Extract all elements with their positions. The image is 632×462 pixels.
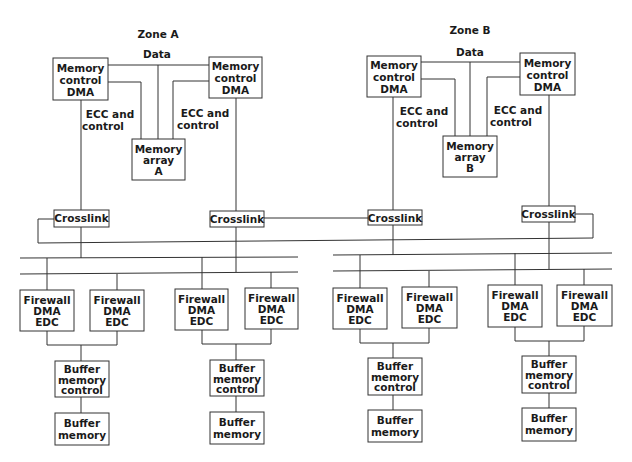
crosslink-a-left: Crosslink <box>54 210 110 227</box>
zone-a-memory-controller-left: Memory control DMA <box>53 58 108 100</box>
svg-text:memory: memory <box>213 428 261 440</box>
svg-text:EDC: EDC <box>105 316 129 328</box>
zone-b-title: Zone B <box>449 24 490 36</box>
buffer-control-b-2: Buffer memory control <box>522 356 576 393</box>
buffer-memory-a-1: Buffer memory <box>55 413 109 445</box>
svg-text:control: control <box>528 379 570 391</box>
svg-text:Memory: Memory <box>57 62 105 74</box>
svg-text:DMA: DMA <box>534 81 562 93</box>
zone-a-memory-array: Memory array A <box>132 139 185 180</box>
svg-text:control: control <box>490 116 532 128</box>
svg-text:control: control <box>216 383 258 395</box>
zone-a-ecc-label-right: ECC and control <box>177 107 229 131</box>
svg-text:memory: memory <box>58 429 106 441</box>
svg-text:Crosslink: Crosslink <box>368 212 423 224</box>
svg-text:memory: memory <box>371 426 419 438</box>
svg-text:control: control <box>61 384 103 396</box>
firewall-b-2: Firewall DMA EDC <box>402 287 457 328</box>
svg-text:memory: memory <box>525 424 573 436</box>
crosslink-interconnect <box>38 214 593 272</box>
zone-b-memory-controller-left: Memory control DMA <box>367 56 421 97</box>
firewall-a-1: Firewall DMA EDC <box>20 290 74 331</box>
svg-text:DMA: DMA <box>380 83 408 95</box>
zone-b-memory-array: Memory array B <box>443 136 497 177</box>
zone-a-title: Zone A <box>137 28 179 40</box>
svg-text:control: control <box>374 381 416 393</box>
zone-a-ecc-label-left: ECC and control <box>82 108 134 132</box>
svg-text:DMA: DMA <box>222 84 250 96</box>
svg-text:control: control <box>177 119 219 131</box>
zone-a-bus <box>20 257 298 274</box>
svg-text:Crosslink: Crosslink <box>54 212 109 224</box>
svg-text:EDC: EDC <box>260 314 284 326</box>
svg-text:ECC and: ECC and <box>400 105 448 117</box>
bus-drops <box>47 253 584 290</box>
buffer-memory-a-2: Buffer memory <box>210 412 264 444</box>
zone-b-ecc-label-left: ECC and control <box>396 105 448 129</box>
svg-text:Crosslink: Crosslink <box>210 213 265 225</box>
buffer-control-a-1: Buffer memory control <box>55 361 109 397</box>
svg-text:EDC: EDC <box>503 311 527 323</box>
buffer-memory-b-2: Buffer memory <box>522 408 576 441</box>
svg-text:DMA: DMA <box>67 86 95 98</box>
zone-b-data-label: Data <box>456 46 484 58</box>
svg-text:Memory: Memory <box>370 59 418 71</box>
svg-text:control: control <box>373 71 415 83</box>
svg-text:control: control <box>215 72 257 84</box>
firewall-b-1: Firewall DMA EDC <box>333 288 387 329</box>
svg-text:ECC and: ECC and <box>494 104 542 116</box>
svg-text:B: B <box>466 162 474 174</box>
svg-text:Memory: Memory <box>212 60 260 72</box>
firewall-a-3: Firewall DMA EDC <box>175 289 228 330</box>
zone-b-bus <box>333 253 612 271</box>
svg-text:Buffer: Buffer <box>377 414 414 426</box>
svg-text:A: A <box>154 165 163 177</box>
firewall-a-4: Firewall DMA EDC <box>245 288 298 329</box>
svg-text:EDC: EDC <box>35 316 59 328</box>
svg-text:EDC: EDC <box>418 313 442 325</box>
svg-text:Crosslink: Crosslink <box>521 208 576 220</box>
svg-text:ECC and: ECC and <box>181 107 229 119</box>
crosslink-a-right: Crosslink <box>210 211 265 227</box>
buffer-control-a-2: Buffer memory control <box>210 360 264 396</box>
zone-b: Zone B Data Memory control DMA Memory co… <box>367 24 575 210</box>
buffer-control-b-1: Buffer memory control <box>368 358 422 395</box>
dual-zone-memory-architecture-diagram: Zone A Data Memory control DMA Memory co… <box>0 0 632 462</box>
zone-b-memory-controller-right: Memory control DMA <box>520 53 575 95</box>
zone-b-ecc-label-right: ECC and control <box>490 104 542 128</box>
svg-text:EDC: EDC <box>190 315 214 327</box>
buffer-memory-b-1: Buffer memory <box>368 410 422 442</box>
zone-a-data-label: Data <box>143 48 171 60</box>
firewall-b-3: Firewall DMA EDC <box>488 285 542 327</box>
svg-text:ECC and: ECC and <box>86 108 134 120</box>
svg-text:control: control <box>527 69 569 81</box>
svg-text:Buffer: Buffer <box>531 412 568 424</box>
zone-a: Zone A Data Memory control DMA Memory co… <box>53 28 262 211</box>
svg-text:control: control <box>82 120 124 132</box>
firewall-a-2: Firewall DMA EDC <box>90 290 144 331</box>
svg-text:EDC: EDC <box>348 314 372 326</box>
svg-text:control: control <box>396 117 438 129</box>
firewall-b-4: Firewall DMA EDC <box>557 285 612 326</box>
svg-text:EDC: EDC <box>573 311 597 323</box>
zone-a-memory-controller-right: Memory control DMA <box>209 57 262 98</box>
svg-text:Buffer: Buffer <box>219 416 256 428</box>
svg-text:Memory: Memory <box>524 57 572 69</box>
crosslink-b-right: Crosslink <box>521 206 576 222</box>
svg-text:control: control <box>60 74 102 86</box>
crosslink-b-left: Crosslink <box>368 210 423 225</box>
svg-text:Buffer: Buffer <box>64 417 101 429</box>
